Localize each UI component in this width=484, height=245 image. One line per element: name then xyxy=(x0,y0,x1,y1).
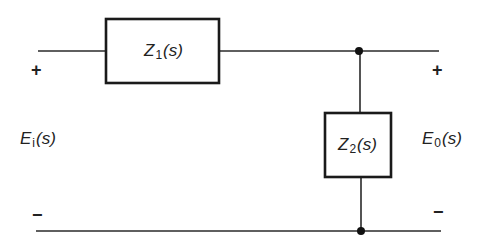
input-minus-sign: − xyxy=(32,206,43,224)
z1-label-main: Z xyxy=(144,41,154,60)
z2-label: Z2(s) xyxy=(338,136,377,153)
z1-label-sub: 1 xyxy=(155,48,162,62)
output-label-sub: 0 xyxy=(434,136,441,150)
input-label-sub: i xyxy=(32,136,35,150)
output-label-main: E xyxy=(422,129,433,148)
top-junction-dot xyxy=(355,47,363,55)
bottom-junction-dot xyxy=(357,227,365,235)
z1-label-arg: (s) xyxy=(163,41,183,60)
output-minus-sign: − xyxy=(433,203,444,221)
z2-label-main: Z xyxy=(338,135,348,154)
output-label-arg: (s) xyxy=(442,129,462,148)
input-voltage-label: Ei(s) xyxy=(20,130,56,147)
circuit-diagram: Z1(s) Z2(s) Ei(s) E0(s) + − + − xyxy=(0,0,484,245)
input-label-arg: (s) xyxy=(36,129,56,148)
z2-label-arg: (s) xyxy=(357,135,377,154)
z2-label-sub: 2 xyxy=(349,142,356,156)
z1-label: Z1(s) xyxy=(144,42,183,59)
output-plus-sign: + xyxy=(432,61,443,79)
circuit-schematic xyxy=(0,0,484,245)
output-voltage-label: E0(s) xyxy=(422,130,462,147)
input-label-main: E xyxy=(20,129,31,148)
input-plus-sign: + xyxy=(31,61,42,79)
